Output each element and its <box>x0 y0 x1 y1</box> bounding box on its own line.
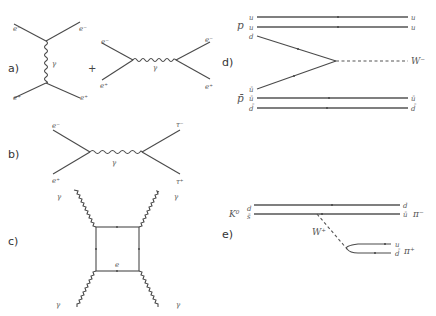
positron-line-out <box>176 60 210 79</box>
photon-propagator <box>90 151 142 154</box>
arrow-marker <box>116 226 118 228</box>
label-u-pair: u <box>395 241 400 249</box>
label-u-out-2: u <box>411 24 416 32</box>
label-k0: K⁰ <box>228 209 240 219</box>
photon-bottom-left <box>77 271 96 307</box>
label-u-in-2: u <box>249 24 254 32</box>
electron-line-out <box>176 42 210 60</box>
label-gamma-bl: γ <box>56 301 61 309</box>
panel-c: c) γ γ γ γ e <box>8 190 181 309</box>
label-sbar-in: s̄ <box>247 213 251 221</box>
label-e-plus: e⁺ <box>52 177 60 185</box>
label-e-minus-in: e⁻ <box>101 38 109 46</box>
label-gamma: γ <box>153 64 158 72</box>
positron-line-in <box>53 152 90 174</box>
label-e-plus-in: e⁺ <box>100 82 108 90</box>
arrow-marker <box>384 243 386 245</box>
label-ubar-out: ū <box>411 95 416 103</box>
arrow-marker <box>95 248 97 250</box>
panel-e: e) K⁰ d s̄ W⁺ d ū π⁻ u d̄ π⁺ <box>222 202 424 258</box>
label-e-plus-in: e⁺ <box>13 94 21 102</box>
tau-plus-line-out <box>142 152 180 174</box>
arrow-marker <box>321 213 323 215</box>
arrow-marker <box>116 270 118 272</box>
label-gamma-br: γ <box>176 301 181 309</box>
d-quark-line <box>257 36 336 61</box>
plus-sign: + <box>88 63 96 74</box>
feynman-diagrams-figure: a) e⁻ e⁻ e⁺ e⁺ γ + e⁻ e⁺ e⁻ e⁺ γ <box>0 0 436 316</box>
arrow-marker <box>337 26 339 28</box>
photon-propagator <box>45 41 48 83</box>
panel-a: a) e⁻ e⁻ e⁺ e⁺ γ + e⁻ e⁺ e⁻ e⁺ γ <box>8 22 213 102</box>
quark-pair-loop <box>346 244 391 253</box>
electron-line-in <box>53 130 90 152</box>
label-d-out: d <box>403 202 408 210</box>
panel-d-label: d) <box>222 56 233 69</box>
electron-line-out <box>46 22 80 41</box>
label-dbar-out: d̄ <box>411 103 417 113</box>
label-gamma: γ <box>112 159 117 167</box>
label-d-in: d <box>249 33 254 41</box>
label-antiproton: p̄ <box>237 92 244 104</box>
arrow-marker <box>297 48 299 50</box>
panel-c-label: c) <box>8 235 18 248</box>
label-proton: p <box>237 19 244 31</box>
photon-propagator <box>133 59 176 62</box>
diagram-a1: e⁻ e⁻ e⁺ e⁺ γ <box>13 22 88 102</box>
label-d-in: d <box>247 205 252 213</box>
panel-e-label: e) <box>222 228 233 241</box>
label-gamma-tr: γ <box>174 193 179 201</box>
photon-top-left <box>74 190 96 227</box>
positron-line-out <box>46 83 80 98</box>
label-e-plus-out: e⁺ <box>80 94 88 102</box>
label-w-minus: W⁻ <box>411 56 425 66</box>
label-ubar-in-1: ū <box>249 86 254 94</box>
label-e-minus-in: e⁻ <box>13 25 21 33</box>
arrow-marker <box>138 248 140 250</box>
label-e-minus-out: e⁻ <box>79 25 87 33</box>
label-dbar-in: d̄ <box>249 103 255 113</box>
photon-top-right <box>139 191 159 227</box>
label-gamma-tl: γ <box>57 193 62 201</box>
arrow-marker <box>293 75 295 77</box>
label-w-plus: W⁺ <box>312 227 326 237</box>
label-electron-loop: e <box>115 261 119 269</box>
label-ubar-out: ū <box>403 211 408 219</box>
label-tau-plus: τ⁺ <box>176 178 184 186</box>
label-pi-plus: π⁺ <box>403 246 415 256</box>
panel-a-label: a) <box>8 62 19 75</box>
panel-b: b) e⁻ e⁺ τ⁻ τ⁺ γ <box>8 121 184 186</box>
label-tau-minus: τ⁻ <box>176 121 184 129</box>
label-e-plus-out: e⁺ <box>205 83 213 91</box>
tau-minus-line-out <box>142 130 180 152</box>
label-e-minus-out: e⁻ <box>205 36 213 44</box>
arrow-marker <box>337 16 339 18</box>
arrow-marker <box>328 97 330 99</box>
panel-b-label: b) <box>8 148 19 161</box>
label-u-out-1: u <box>411 14 416 22</box>
label-pi-minus: π⁻ <box>412 209 424 219</box>
panel-d: d) p p̄ u u d ū ū d̄ u u W⁻ ū d̄ <box>222 14 425 113</box>
arrow-marker <box>331 204 333 206</box>
label-u-in-1: u <box>249 14 254 22</box>
positron-line-in <box>102 60 133 80</box>
label-dbar-pair: d̄ <box>395 248 401 258</box>
arrow-marker <box>374 252 376 254</box>
diagram-a2: e⁻ e⁺ e⁻ e⁺ γ <box>100 36 213 91</box>
arrow-marker <box>326 107 328 109</box>
label-gamma: γ <box>52 60 57 68</box>
label-e-minus: e⁻ <box>52 122 60 130</box>
photon-bottom-right <box>139 271 158 307</box>
label-ubar-in-2: ū <box>249 95 254 103</box>
ubar-quark-line <box>257 61 336 89</box>
